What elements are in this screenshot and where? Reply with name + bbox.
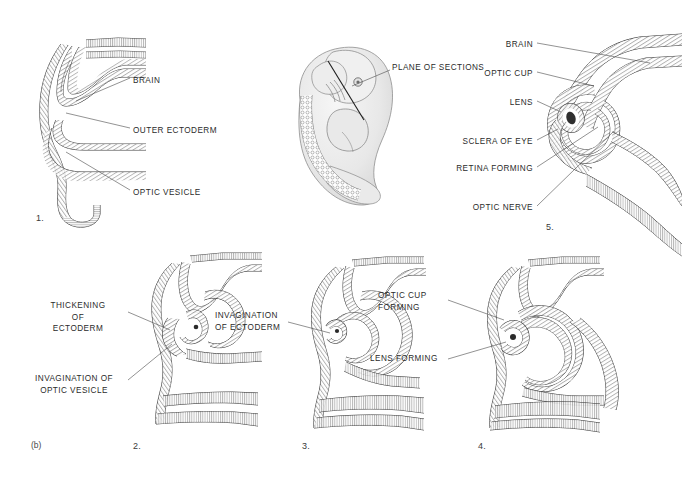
optic-nerve-band: [612, 132, 682, 206]
bottom-ribbons-4: [490, 402, 600, 432]
label-lens-forming: LENS FORMING: [370, 353, 438, 365]
label-brain-1: BRAIN: [133, 75, 160, 87]
diagram-canvas: [0, 0, 682, 481]
dorsal-ribbons-3: [352, 257, 424, 266]
panel-3-drawing: [311, 257, 426, 430]
lens-forming-4: [500, 321, 529, 355]
label-invagination-of-optic-vesicle: INVAGINATION OF OPTIC VESICLE: [20, 373, 128, 396]
ventral-ribbon-2: [186, 349, 262, 363]
panel-1-drawing: [40, 38, 146, 227]
ectoderm-pit-3: [326, 320, 347, 343]
leader-outer-ectoderm-1: [66, 113, 130, 128]
leader-invagination-ectoderm-3: [288, 322, 330, 333]
bottom-ribbons-2: [156, 392, 258, 426]
panel-5-drawing: [548, 34, 682, 256]
plate-label: (b): [31, 440, 41, 450]
panel-number-5: 5.: [546, 222, 554, 232]
label-sclera-of-eye-5: SCLERA OF EYE: [413, 136, 533, 148]
panel-number-2: 2.: [133, 441, 141, 451]
panel-number-1: 1.: [36, 213, 44, 223]
embryo-illustration: [299, 47, 393, 205]
dorsal-ribbons-2: [190, 253, 262, 262]
ventral-ectoderm-band-5: [586, 174, 682, 256]
optic-vesicle-band: [43, 120, 146, 181]
panel-number-3: 3.: [302, 441, 310, 451]
ventral-ribbon-3: [344, 362, 420, 388]
optic-vesicle-invagination: [180, 310, 208, 344]
label-lens-5: LENS: [413, 97, 533, 109]
dorsal-ectoderm-band: [86, 38, 146, 58]
dorsal-ribbons-4: [528, 257, 600, 266]
label-thickening-of-ectoderm: THICKENING OF ECTODERM: [28, 300, 128, 335]
panel-number-4: 4.: [478, 441, 486, 451]
label-optic-vesicle-1: OPTIC VESICLE: [133, 187, 201, 199]
label-optic-nerve-5: OPTIC NERVE: [413, 202, 533, 214]
label-optic-cup-forming: OPTIC CUP FORMING: [378, 290, 427, 313]
label-brain-5: BRAIN: [413, 39, 533, 51]
panel-4-drawing: [487, 257, 618, 432]
label-optic-cup-5: OPTIC CUP: [413, 68, 533, 80]
bottom-ribbons-3: [314, 396, 424, 430]
eye-development-figure: BRAIN OUTER ECTODERM OPTIC VESICLE 1. PL…: [0, 0, 682, 481]
label-retina-forming-5: RETINA FORMING: [413, 163, 533, 175]
label-invagination-of-ectoderm: INVAGINATION OF ECTODERM: [215, 310, 280, 333]
leader-thickening-2: [128, 312, 170, 330]
brain-band-2: [179, 262, 262, 313]
retina-layer-4: [521, 318, 572, 385]
label-outer-ectoderm-1: OUTER ECTODERM: [133, 125, 217, 137]
panel-2-drawing: [152, 253, 262, 426]
